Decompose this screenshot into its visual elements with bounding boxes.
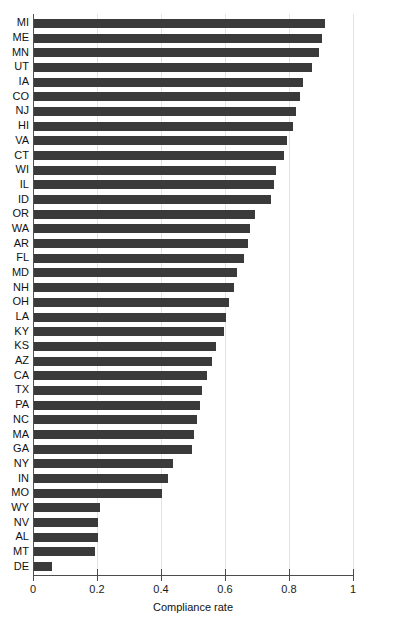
category-label-ct: CT — [0, 149, 29, 161]
category-label-oh: OH — [0, 295, 29, 307]
category-label-in: IN — [0, 472, 29, 484]
y-axis-category-labels: MIMEMNUTIACONJHIVACTWIILIDORWAARFLMDNHOH… — [0, 16, 29, 574]
x-axis-tick-label: 0.6 — [217, 583, 232, 595]
category-label-ky: KY — [0, 325, 29, 337]
category-label-mo: MO — [0, 486, 29, 498]
category-label-ca: CA — [0, 369, 29, 381]
x-axis-tick-label: 0.8 — [281, 583, 296, 595]
category-label-nc: NC — [0, 413, 29, 425]
bar — [34, 136, 287, 145]
bar — [34, 489, 162, 498]
category-label-de: DE — [0, 560, 29, 572]
category-label-me: ME — [0, 31, 29, 43]
category-label-or: OR — [0, 207, 29, 219]
bar — [34, 547, 95, 556]
bar — [34, 254, 244, 263]
bar — [34, 224, 250, 233]
category-label-nj: NJ — [0, 104, 29, 116]
category-label-ut: UT — [0, 60, 29, 72]
bar — [34, 459, 173, 468]
bar — [34, 195, 271, 204]
bar — [34, 327, 224, 336]
category-label-az: AZ — [0, 354, 29, 366]
bar — [34, 151, 284, 160]
bar — [34, 180, 274, 189]
bar — [34, 283, 234, 292]
bar — [34, 415, 197, 424]
x-axis-line — [33, 575, 353, 576]
category-label-md: MD — [0, 266, 29, 278]
x-axis-tick-label: 0.4 — [153, 583, 168, 595]
category-label-va: VA — [0, 134, 29, 146]
bar — [34, 107, 296, 116]
bar — [34, 357, 212, 366]
category-label-ia: IA — [0, 75, 29, 87]
category-label-ma: MA — [0, 428, 29, 440]
bar — [34, 313, 226, 322]
category-label-mi: MI — [0, 16, 29, 28]
bar — [34, 63, 312, 72]
bar — [34, 474, 168, 483]
category-label-nv: NV — [0, 516, 29, 528]
category-label-fl: FL — [0, 251, 29, 263]
bar — [34, 166, 276, 175]
x-axis-tick-label: 1 — [350, 583, 356, 595]
category-label-il: IL — [0, 178, 29, 190]
bar — [34, 371, 207, 380]
category-label-co: CO — [0, 90, 29, 102]
bar — [34, 19, 325, 28]
category-label-mt: MT — [0, 545, 29, 557]
chart-page: 00.20.40.60.81 MIMEMNUTIACONJHIVACTWIILI… — [0, 0, 394, 627]
category-label-mn: MN — [0, 46, 29, 58]
category-label-wa: WA — [0, 222, 29, 234]
bar — [34, 518, 98, 527]
category-label-id: ID — [0, 193, 29, 205]
bar — [34, 386, 202, 395]
category-label-pa: PA — [0, 398, 29, 410]
bar — [34, 239, 248, 248]
bar — [34, 430, 194, 439]
bar — [34, 342, 216, 351]
bar — [34, 298, 229, 307]
bar-chart: 00.20.40.60.81 MIMEMNUTIACONJHIVACTWIILI… — [0, 0, 394, 627]
bar — [34, 562, 52, 571]
category-label-wy: WY — [0, 501, 29, 513]
bar — [34, 92, 300, 101]
category-label-ar: AR — [0, 237, 29, 249]
bar — [34, 445, 192, 454]
bar — [34, 268, 237, 277]
x-axis-tick-label: 0 — [30, 583, 36, 595]
category-label-la: LA — [0, 310, 29, 322]
category-label-ga: GA — [0, 442, 29, 454]
category-label-tx: TX — [0, 383, 29, 395]
bar — [34, 48, 319, 57]
bar — [34, 210, 255, 219]
category-label-hi: HI — [0, 119, 29, 131]
bar — [34, 78, 303, 87]
category-label-ny: NY — [0, 457, 29, 469]
x-axis-title: Compliance rate — [33, 601, 353, 613]
category-label-ks: KS — [0, 339, 29, 351]
bar — [34, 122, 293, 131]
bar — [34, 503, 100, 512]
x-axis-tick-label: 0.2 — [89, 583, 104, 595]
category-label-al: AL — [0, 530, 29, 542]
category-label-wi: WI — [0, 163, 29, 175]
category-label-nh: NH — [0, 281, 29, 293]
bars-container — [34, 16, 374, 574]
bar — [34, 34, 322, 43]
bar — [34, 533, 98, 542]
bar — [34, 401, 200, 410]
